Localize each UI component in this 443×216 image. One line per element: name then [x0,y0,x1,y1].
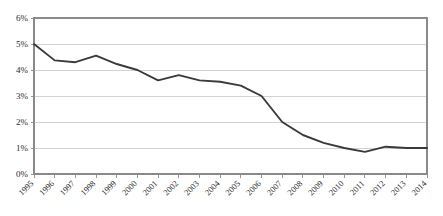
chart-container: 0%1%2%3%4%5%6% 1995199619971998199920002… [0,0,443,216]
y-axis-tick-label: 3% [16,91,29,101]
y-axis-tick-label: 0% [16,169,29,179]
y-axis-tick-label: 4% [16,65,29,75]
y-axis-tick-label: 6% [16,13,29,23]
y-axis-tick-label: 1% [16,143,29,153]
line-chart: 0%1%2%3%4%5%6% 1995199619971998199920002… [0,0,443,216]
y-axis-tick-label: 5% [16,39,29,49]
y-axis-tick-label: 2% [16,117,29,127]
